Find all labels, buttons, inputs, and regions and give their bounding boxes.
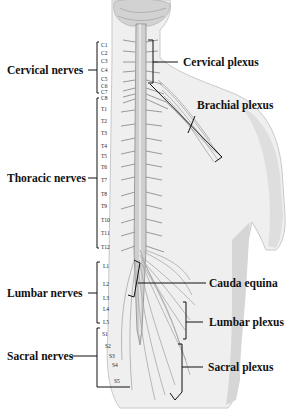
spinal-nerves-diagram: Cervical nerves Thoracic nerves Lumbar n… bbox=[0, 0, 295, 415]
segment-s2: S2 bbox=[105, 343, 111, 349]
label-lumbar-nerves: Lumbar nerves bbox=[7, 287, 83, 299]
segment-t1: T1 bbox=[101, 106, 107, 112]
segment-c3: C3 bbox=[101, 58, 107, 64]
segment-t8: T8 bbox=[101, 191, 107, 197]
thoracic-bracket bbox=[97, 98, 99, 248]
label-sacral-plexus: Sacral plexus bbox=[208, 361, 274, 373]
segment-c2: C2 bbox=[101, 50, 107, 56]
segment-l2: L2 bbox=[103, 281, 109, 287]
segment-l1: L1 bbox=[103, 263, 109, 269]
segment-s5: S5 bbox=[114, 378, 120, 384]
segment-s3: S3 bbox=[109, 353, 115, 359]
segment-s1: S1 bbox=[102, 331, 108, 337]
segment-c1: C1 bbox=[101, 42, 107, 48]
segment-l5: L5 bbox=[103, 319, 109, 325]
segment-l4: L4 bbox=[103, 306, 109, 312]
segment-c8: C8 bbox=[101, 95, 107, 101]
label-cervical-nerves: Cervical nerves bbox=[7, 64, 83, 76]
lumbar-bracket bbox=[97, 262, 100, 323]
label-brachial-plexus: Brachial plexus bbox=[197, 99, 273, 111]
segment-t5: T5 bbox=[101, 153, 107, 159]
segment-t11: T11 bbox=[101, 230, 110, 236]
segment-t3: T3 bbox=[101, 130, 107, 136]
label-cervical-plexus: Cervical plexus bbox=[183, 56, 259, 68]
label-cauda-equina: Cauda equina bbox=[209, 277, 278, 289]
segment-t10: T10 bbox=[101, 217, 110, 223]
segment-t2: T2 bbox=[101, 118, 107, 124]
segment-t9: T9 bbox=[101, 203, 107, 209]
segment-l3: L3 bbox=[103, 295, 109, 301]
segment-c5: C5 bbox=[101, 76, 107, 82]
segment-c4: C4 bbox=[101, 67, 107, 73]
label-sacral-nerves: Sacral nerves bbox=[7, 350, 73, 362]
label-thoracic-nerves: Thoracic nerves bbox=[7, 172, 86, 184]
segment-s4: S4 bbox=[112, 362, 118, 368]
cervical-bracket bbox=[97, 42, 99, 93]
segment-t4: T4 bbox=[101, 143, 107, 149]
segment-t7: T7 bbox=[101, 177, 107, 183]
label-lumbar-plexus: Lumbar plexus bbox=[209, 316, 284, 328]
segment-t12: T12 bbox=[101, 244, 110, 250]
segment-t6: T6 bbox=[101, 164, 107, 170]
